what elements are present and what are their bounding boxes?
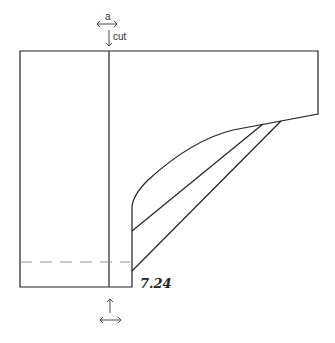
pattern-diagram — [0, 0, 335, 343]
arrow-up-icon — [107, 299, 113, 313]
pattern-outline — [20, 51, 318, 287]
double-arrow-horizontal-icon — [100, 317, 121, 323]
diagonal-line-2 — [132, 121, 281, 271]
arrow-down-icon — [106, 30, 112, 46]
label-a: a — [105, 11, 111, 22]
label-cut: cut — [113, 31, 126, 42]
figure-number: 7.24 — [140, 276, 172, 291]
